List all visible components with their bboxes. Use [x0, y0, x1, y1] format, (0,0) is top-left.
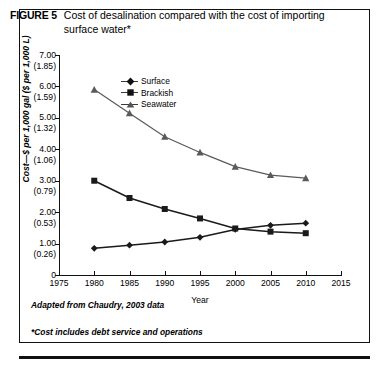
- data-point-brackish: [91, 178, 97, 184]
- triangle-marker-icon: [121, 100, 138, 109]
- x-axis-tick: [235, 271, 236, 276]
- y-axis-tick: [55, 244, 59, 245]
- x-axis-tick-labels: 197519801985199019952000200520102015: [59, 278, 341, 292]
- data-point-surface: [91, 245, 98, 252]
- y-axis-line: [59, 55, 60, 276]
- y-axis-tick-sublabel: (1.06): [16, 155, 56, 165]
- figure-label: FIGURE 5: [10, 9, 57, 36]
- x-axis-tick: [200, 271, 201, 276]
- data-point-brackish: [127, 195, 133, 201]
- legend-item-seawater: Seawater: [121, 99, 176, 109]
- figure-title-row: FIGURE 5 Cost of desalination compared w…: [10, 9, 340, 36]
- y-axis-tick-sublabel: (1.59): [16, 92, 56, 102]
- x-axis-tick-label: 1990: [145, 278, 185, 288]
- data-point-seawater: [126, 110, 133, 117]
- diamond-marker-icon: [121, 77, 138, 86]
- x-axis-tick-label: 2010: [286, 278, 326, 288]
- data-point-brackish: [268, 229, 274, 235]
- data-point-surface: [197, 234, 204, 241]
- square-marker-icon: [121, 88, 138, 97]
- y-axis-tick: [55, 55, 59, 56]
- data-point-seawater: [161, 133, 168, 140]
- y-axis-tick-label: 2.00: [16, 207, 56, 217]
- data-point-surface: [302, 220, 309, 227]
- legend-label: Surface: [141, 76, 170, 86]
- bottom-divider: [19, 356, 370, 359]
- y-axis-tick: [55, 149, 59, 150]
- chart-legend: Surface Brackish Seawater: [121, 76, 176, 111]
- y-axis-tick-labels: 01.00(0.26)2.00(0.53)3.00(0.79)4.00(1.06…: [12, 48, 56, 278]
- legend-item-brackish: Brackish: [121, 88, 176, 98]
- source-note: Adapted from Chaudry, 2003 data: [31, 300, 164, 310]
- x-axis-tick: [130, 271, 131, 276]
- chart-plot-area: Cost—$ per 1,000 gal ($ per 1,000 L) 01.…: [12, 48, 342, 288]
- y-axis-tick-sublabel: (1.32): [16, 123, 56, 133]
- x-axis-tick-label: 2000: [215, 278, 255, 288]
- legend-label: Brackish: [141, 88, 173, 98]
- page-title: Cost of desalination compared with the c…: [64, 9, 340, 36]
- data-point-brackish: [197, 215, 203, 221]
- chart-frame: Surface Brackish Seawater: [59, 48, 341, 276]
- y-axis-tick-label: 3.00: [16, 175, 56, 185]
- y-axis-tick: [55, 86, 59, 87]
- x-axis-tick-label: 1975: [39, 278, 79, 288]
- data-point-surface: [267, 222, 274, 229]
- y-axis-tick-label: 4.00: [16, 144, 56, 154]
- data-point-seawater: [196, 149, 203, 156]
- y-axis-tick-label: 1.00: [16, 238, 56, 248]
- y-axis-tick-sublabel: (0.26): [16, 249, 56, 259]
- x-axis-tick-label: 1995: [180, 278, 220, 288]
- chart-series-svg: [59, 48, 341, 276]
- data-point-seawater: [232, 163, 239, 170]
- legend-label: Seawater: [141, 99, 176, 109]
- x-axis-tick: [341, 271, 342, 276]
- x-axis-tick-label: 2005: [251, 278, 291, 288]
- y-axis-tick-label: 5.00: [16, 112, 56, 122]
- y-axis-tick: [55, 181, 59, 182]
- y-axis-tick: [55, 118, 59, 119]
- data-point-surface: [126, 242, 133, 249]
- x-axis-tick: [271, 271, 272, 276]
- data-point-seawater: [91, 86, 98, 93]
- data-point-surface: [161, 239, 168, 246]
- x-axis-tick-label: 1985: [110, 278, 150, 288]
- x-axis-tick: [165, 271, 166, 276]
- footnote: *Cost includes debt service and operatio…: [31, 327, 203, 337]
- y-axis-tick-sublabel: (0.79): [16, 186, 56, 196]
- y-axis-tick: [55, 212, 59, 213]
- data-point-brackish: [162, 206, 168, 212]
- legend-item-surface: Surface: [121, 76, 176, 86]
- x-axis-tick-label: 1980: [74, 278, 114, 288]
- y-axis-tick-label: 7.00: [16, 50, 56, 60]
- x-axis-tick: [59, 271, 60, 276]
- x-axis-tick: [306, 271, 307, 276]
- x-axis-tick-label: 2015: [321, 278, 361, 288]
- y-axis-tick-sublabel: (1.85): [16, 61, 56, 71]
- data-point-brackish: [232, 225, 238, 231]
- y-axis-tick-label: 6.00: [16, 81, 56, 91]
- data-point-brackish: [303, 230, 309, 236]
- y-axis-tick-sublabel: (0.53): [16, 218, 56, 228]
- x-axis-tick: [94, 271, 95, 276]
